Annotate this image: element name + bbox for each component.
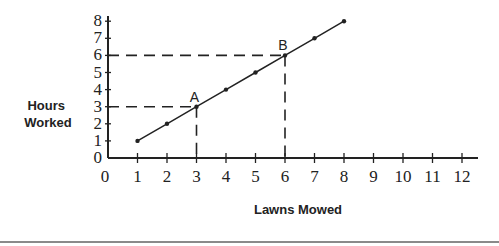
data-series	[135, 19, 346, 143]
y-tick-label: 8	[94, 11, 103, 30]
y-tick-label: 3	[94, 97, 103, 116]
y-tick-label: 6	[94, 45, 103, 64]
line-chart: 0123456789101112 012345678 AB Lawns Mowe…	[0, 0, 499, 246]
point-label-A: A	[190, 89, 200, 105]
x-tick-label: 8	[340, 167, 349, 186]
y-tick-label: 4	[94, 80, 103, 99]
x-tick-label: 2	[163, 167, 172, 186]
data-point	[224, 87, 228, 91]
data-point	[165, 122, 169, 126]
y-tick-label: 5	[94, 63, 103, 82]
bottom-separator	[0, 241, 499, 243]
x-tick-label: 9	[369, 167, 378, 186]
y-tick-label: 1	[94, 131, 103, 150]
x-tick-label: 3	[192, 167, 201, 186]
data-point	[253, 70, 257, 74]
point-annotations: AB	[190, 37, 288, 104]
y-tick-label: 7	[94, 28, 103, 47]
data-point	[135, 139, 139, 143]
x-tick-label: 12	[454, 167, 471, 186]
y-tick-label: 2	[94, 114, 103, 133]
y-axis-title-line2: Worked	[24, 115, 71, 130]
x-axis-title: Lawns Mowed	[254, 202, 342, 217]
x-tick-label: 1	[133, 167, 142, 186]
x-tick-label: 11	[424, 167, 440, 186]
x-tick-label: 4	[222, 167, 231, 186]
axes	[108, 16, 478, 158]
x-tick-label: 0	[101, 167, 110, 186]
x-tick-label: 10	[395, 167, 412, 186]
data-point	[194, 105, 198, 109]
data-point	[342, 19, 346, 23]
y-axis-title: Hours Worked	[24, 98, 71, 130]
x-tick-label: 6	[281, 167, 290, 186]
x-tick-label: 7	[310, 167, 319, 186]
y-tick-label: 0	[94, 148, 103, 167]
data-point	[312, 36, 316, 40]
point-label-B: B	[278, 37, 287, 53]
data-point	[283, 53, 287, 57]
y-axis-title-line1: Hours	[27, 98, 65, 113]
x-tick-label: 5	[251, 167, 260, 186]
